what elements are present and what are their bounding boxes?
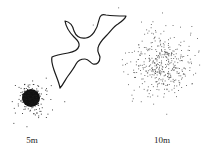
- bird-silhouette-outline: [52, 15, 126, 88]
- shot-pattern-10m: [93, 0, 204, 115]
- distance-label-5m: 5m: [12, 135, 52, 145]
- diagram-canvas: [0, 0, 204, 154]
- shot-pattern-diagram: 5m 10m: [0, 0, 204, 154]
- shot-pattern-5m: [12, 78, 65, 128]
- distance-label-10m: 10m: [142, 135, 182, 145]
